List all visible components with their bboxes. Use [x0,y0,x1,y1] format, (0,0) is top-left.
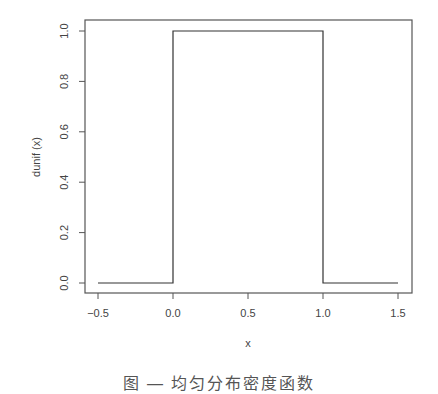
svg-text:0.4: 0.4 [58,175,70,190]
figure-caption: 图 — 均匀分布密度函数 [0,370,438,394]
svg-text:0.5: 0.5 [240,307,255,319]
x-axis [98,293,398,299]
svg-text:1.5: 1.5 [390,307,405,319]
y-axis-title: dunif (x) [30,137,42,177]
x-tick-labels: −0.50.00.51.01.5 [87,307,406,319]
y-axis [79,31,85,283]
svg-text:0.8: 0.8 [58,74,70,89]
svg-text:0.2: 0.2 [58,225,70,240]
x-axis-title: x [245,337,251,349]
plot-frame [85,20,412,293]
svg-text:0.0: 0.0 [58,275,70,290]
svg-text:1.0: 1.0 [58,23,70,38]
svg-text:0.0: 0.0 [165,307,180,319]
y-tick-labels: 0.00.20.40.60.81.0 [58,23,70,290]
density-line [98,31,398,283]
svg-text:0.6: 0.6 [58,124,70,139]
svg-text:−0.5: −0.5 [87,307,109,319]
svg-text:1.0: 1.0 [315,307,330,319]
